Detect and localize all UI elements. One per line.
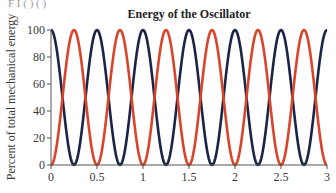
y-tick-label: 20 [33,131,45,145]
x-tick-label: 0.5 [90,170,105,184]
y-tick-label: 80 [33,50,45,64]
y-tick-label: 60 [33,77,45,91]
x-tick-label: 1 [140,170,146,184]
y-tick-label: 0 [39,158,45,172]
y-tick-label: 100 [27,23,45,37]
x-tick-label: 2.5 [274,170,289,184]
plot-area [51,30,327,165]
x-tick-label: 1.5 [182,170,197,184]
energy-chart: F I ( ) ( ) Energy of the Oscillator Per… [0,0,336,193]
x-tick-label: 3 [324,170,330,184]
chart-title: Energy of the Oscillator [128,7,252,21]
x-tick-label: 0 [48,170,54,184]
x-tick-label: 2 [232,170,238,184]
cut-off-header-text: F I ( ) ( ) [8,0,47,10]
y-tick-label: 40 [33,104,45,118]
y-axis-label: Percent of total mechanical energy [4,14,18,180]
